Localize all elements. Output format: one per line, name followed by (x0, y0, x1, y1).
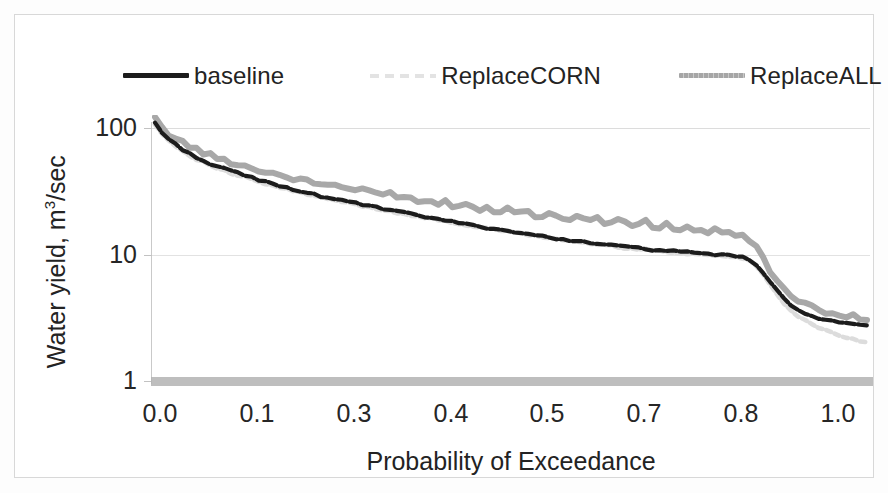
x-axis-label-0-0: 0.0 (120, 401, 200, 426)
legend-item-baseline: baseline (123, 62, 284, 90)
faint-dashed-line-icon (370, 67, 436, 85)
legend-label-baseline: baseline (194, 62, 284, 90)
chart-legend: baseline ReplaceCORN ReplaceALL (105, 59, 865, 93)
y-axis-label-10: 10 (67, 242, 137, 267)
x-axis-label-0-7: 0.7 (604, 401, 684, 426)
y-tick-100 (144, 128, 152, 129)
y-axis-title: Water yield, m3/sec (41, 137, 70, 387)
x-axis-label-1-0: 1.0 (798, 401, 878, 426)
gray-line-icon (679, 67, 745, 85)
legend-item-replacecorn: ReplaceCORN (370, 62, 601, 90)
x-axis-label-0-3: 0.3 (314, 401, 394, 426)
legend-item-replaceall: ReplaceALL (679, 62, 882, 90)
x-axis-label-0-4: 0.4 (411, 401, 491, 426)
plot-area (152, 115, 870, 395)
x-axis-label-0-5: 0.5 (507, 401, 587, 426)
y-axis-label-1: 1 (67, 368, 137, 393)
y-axis-title-suffix: /sec (42, 155, 70, 201)
chart-frame: baseline ReplaceCORN ReplaceALL 100 10 1… (14, 14, 874, 478)
y-axis-title-prefix: Water yield, m (42, 209, 70, 368)
x-axis-labels: 0.00.10.30.40.50.70.81.0 (152, 401, 870, 433)
x-axis-label-0-1: 0.1 (217, 401, 297, 426)
x-axis-baseline-band (151, 377, 873, 386)
y-axis-title-exponent: 3 (41, 201, 58, 209)
series-line-baseline (155, 123, 867, 326)
legend-label-replacecorn: ReplaceCORN (441, 62, 601, 90)
y-axis-label-100: 100 (67, 115, 137, 140)
legend-label-replaceall: ReplaceALL (750, 62, 882, 90)
flow-duration-curves (152, 115, 870, 395)
series-line-replaceall (155, 117, 867, 320)
x-axis-title: Probability of Exceedance (152, 447, 870, 476)
x-axis-label-0-8: 0.8 (701, 401, 781, 426)
y-tick-10 (144, 255, 152, 256)
